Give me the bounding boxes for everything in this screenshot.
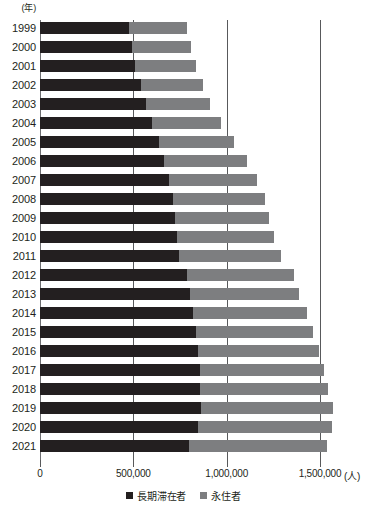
bar-row: 2000: [0, 39, 367, 58]
y-axis-tick-label: 2017: [0, 362, 36, 381]
bar-row: 2012: [0, 267, 367, 286]
y-axis-tick-label: 1999: [0, 20, 36, 39]
bar-segment-chouki-taizaisha: [40, 269, 187, 281]
bar-segment-chouki-taizaisha: [40, 22, 129, 34]
bar-row: 2003: [0, 96, 367, 115]
legend-swatch-icon: [200, 492, 207, 499]
bar-segment-eijuusha: [135, 60, 196, 72]
bar-segment-eijuusha: [189, 440, 327, 452]
x-axis-tick-label: 1,000,000: [205, 468, 248, 479]
bar-row: 2016: [0, 343, 367, 362]
legend-label: 長期滞在者: [137, 488, 186, 503]
y-axis-tick-label: 2012: [0, 267, 36, 286]
bar-segment-eijuusha: [159, 136, 235, 148]
bar-row: 2009: [0, 210, 367, 229]
x-axis-tick-mark: [227, 460, 228, 467]
bar-segment-eijuusha: [177, 231, 275, 243]
bar-segment-eijuusha: [198, 421, 332, 433]
bar-segment-chouki-taizaisha: [40, 60, 135, 72]
bar-segment-chouki-taizaisha: [40, 440, 189, 452]
y-axis-tick-label: 2002: [0, 77, 36, 96]
bar-segment-eijuusha: [152, 117, 221, 129]
bar-segment-chouki-taizaisha: [40, 345, 198, 357]
bar-row: 2006: [0, 153, 367, 172]
plot-area: 1999200020012002200320042005200620072008…: [0, 20, 367, 460]
bar-segment-chouki-taizaisha: [40, 421, 198, 433]
y-axis-tick-label: 2010: [0, 229, 36, 248]
bar-segment-chouki-taizaisha: [40, 155, 164, 167]
y-axis-unit-label: (年): [0, 3, 36, 14]
bar-row: 2002: [0, 77, 367, 96]
bar-segment-eijuusha: [193, 307, 306, 319]
x-axis-tick-mark: [40, 460, 41, 467]
bar-segment-chouki-taizaisha: [40, 250, 179, 262]
chart-legend: 長期滞在者永住者: [0, 487, 367, 503]
y-axis-tick-label: 2015: [0, 324, 36, 343]
y-axis-tick-label: 2021: [0, 438, 36, 457]
bar-segment-chouki-taizaisha: [40, 117, 152, 129]
bar-row: 2008: [0, 191, 367, 210]
y-axis-tick-label: 2020: [0, 419, 36, 438]
y-axis-tick-label: 2018: [0, 381, 36, 400]
bar-row: 2005: [0, 134, 367, 153]
bar-rows: 1999200020012002200320042005200620072008…: [0, 20, 367, 460]
y-axis-tick-label: 2007: [0, 172, 36, 191]
x-axis-tick-mark: [133, 460, 134, 467]
legend-label: 永住者: [211, 488, 240, 503]
bar-row: 2001: [0, 58, 367, 77]
bar-segment-eijuusha: [164, 155, 247, 167]
y-axis-tick-label: 2013: [0, 286, 36, 305]
y-axis-tick-label: 2001: [0, 58, 36, 77]
bar-segment-chouki-taizaisha: [40, 383, 200, 395]
bar-row: 2007: [0, 172, 367, 191]
bar-segment-chouki-taizaisha: [40, 136, 159, 148]
y-axis-tick-label: 2000: [0, 39, 36, 58]
bar-segment-eijuusha: [146, 98, 210, 110]
stacked-bar-chart: (年) 199920002001200220032004200520062007…: [0, 0, 367, 505]
x-axis-tick-mark: [320, 460, 321, 467]
bar-segment-chouki-taizaisha: [40, 41, 132, 53]
bar-segment-eijuusha: [141, 79, 203, 91]
bar-segment-eijuusha: [198, 345, 319, 357]
bar-row: 2015: [0, 324, 367, 343]
bar-row: 2019: [0, 400, 367, 419]
y-axis-tick-label: 2003: [0, 96, 36, 115]
bar-segment-eijuusha: [200, 364, 324, 376]
bar-row: 2011: [0, 248, 367, 267]
bar-row: 2021: [0, 438, 367, 457]
bar-segment-chouki-taizaisha: [40, 212, 175, 224]
y-axis-tick-label: 2004: [0, 115, 36, 134]
bar-row: 2013: [0, 286, 367, 305]
bar-segment-eijuusha: [179, 250, 281, 262]
bar-segment-eijuusha: [175, 212, 270, 224]
bar-segment-chouki-taizaisha: [40, 288, 190, 300]
bar-row: 2020: [0, 419, 367, 438]
x-axis: 0500,0001,000,0001,500,000(人): [0, 460, 367, 480]
legend-swatch-icon: [126, 492, 133, 499]
bar-segment-eijuusha: [201, 402, 333, 414]
bar-segment-chouki-taizaisha: [40, 231, 177, 243]
bar-segment-chouki-taizaisha: [40, 98, 146, 110]
bar-segment-eijuusha: [200, 383, 328, 395]
y-axis-tick-label: 2011: [0, 248, 36, 267]
bar-row: 2018: [0, 381, 367, 400]
bar-row: 1999: [0, 20, 367, 39]
bar-segment-chouki-taizaisha: [40, 79, 141, 91]
bar-row: 2014: [0, 305, 367, 324]
bar-segment-eijuusha: [169, 174, 257, 186]
y-axis-tick-label: 2019: [0, 400, 36, 419]
y-axis-tick-label: 2008: [0, 191, 36, 210]
bar-segment-eijuusha: [187, 269, 293, 281]
bar-segment-chouki-taizaisha: [40, 193, 173, 205]
legend-item[interactable]: 長期滞在者: [126, 488, 186, 503]
bar-row: 2004: [0, 115, 367, 134]
y-axis-tick-label: 2006: [0, 153, 36, 172]
legend-item[interactable]: 永住者: [200, 488, 240, 503]
bar-segment-eijuusha: [196, 326, 313, 338]
x-axis-tick-label: 0: [37, 468, 42, 479]
bar-segment-chouki-taizaisha: [40, 174, 169, 186]
bar-segment-chouki-taizaisha: [40, 307, 193, 319]
bar-row: 2017: [0, 362, 367, 381]
bar-segment-chouki-taizaisha: [40, 402, 201, 414]
bar-segment-eijuusha: [190, 288, 300, 300]
